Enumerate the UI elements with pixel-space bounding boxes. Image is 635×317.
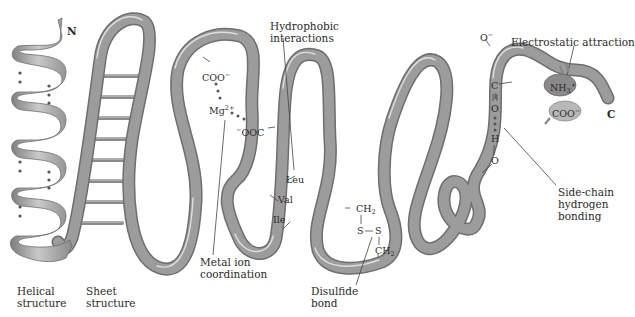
oxyanion: O− bbox=[480, 30, 493, 43]
methylene-a: CH2 bbox=[356, 204, 376, 217]
hydrophobic-interactions-label: Hydrophobic interactions bbox=[270, 20, 339, 44]
ammonium-group: NH3+ bbox=[550, 80, 576, 96]
methylene-b: CH2 bbox=[375, 246, 395, 259]
sulfur-atom-1: S bbox=[357, 226, 364, 236]
carboxylate-top: COO− bbox=[202, 70, 230, 83]
valine-residue: Val bbox=[278, 195, 293, 205]
alpha-helix bbox=[10, 18, 72, 262]
electrostatic-attraction-label: Electrostatic attraction bbox=[511, 36, 635, 48]
hydrogen-atom: H bbox=[491, 134, 499, 144]
hydroxyl-oxygen: O bbox=[491, 156, 499, 166]
isoleucine-residue: Ile bbox=[273, 215, 285, 225]
carboxylate-right: COO− bbox=[552, 106, 580, 119]
leucine-residue: Leu bbox=[286, 175, 304, 185]
carbonyl-carbon: C bbox=[491, 81, 498, 91]
n-terminus-label: N bbox=[67, 25, 77, 37]
carbonyl-oxygen: O bbox=[491, 104, 499, 114]
disulfide-bond-label: Disulfide bond bbox=[311, 285, 358, 309]
backbone-ribbon bbox=[58, 17, 608, 269]
helical-structure-label: Helical structure bbox=[17, 285, 67, 309]
side-chain-hydrogen-bonding-label: Side-chain hydrogen bonding bbox=[558, 186, 614, 222]
sheet-structure-label: Sheet structure bbox=[86, 285, 136, 309]
magnesium-ion: Mg2+ bbox=[209, 103, 234, 116]
c-terminus-label: C bbox=[607, 108, 615, 120]
metal-ion-coordination-label: Metal ion coordination bbox=[200, 256, 267, 280]
sulfur-atom-2: S bbox=[375, 226, 382, 236]
carboxylate-lower: −OOC bbox=[236, 125, 264, 138]
